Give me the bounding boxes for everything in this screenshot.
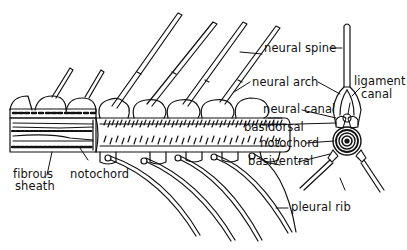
label-notochord-right: notochord (260, 137, 319, 149)
label-fibrous-sheath-line2: sheath (15, 180, 55, 192)
vertebral-column-diagram: neural spine neural arch ligament canal … (0, 0, 407, 250)
label-basiventral: basiventral (248, 155, 313, 167)
cutaway-section (10, 68, 104, 152)
label-ligament-canal-line2: canal (361, 88, 392, 100)
label-pleural-rib: pleural rib (291, 201, 351, 213)
label-ligament-canal-line1: ligament (354, 75, 406, 87)
label-basidorsal: basidorsal (244, 121, 304, 133)
label-neural-spine: neural spine (264, 42, 336, 54)
label-neural-canal: neural canal (263, 103, 335, 115)
label-notochord-left: notochord (70, 168, 129, 180)
leader-lines (47, 48, 360, 208)
label-neural-arch: neural arch (252, 76, 319, 88)
